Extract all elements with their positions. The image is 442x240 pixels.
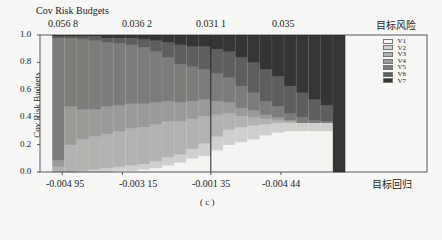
bar-segment-v6 xyxy=(296,93,309,118)
bar-segment-v5 xyxy=(260,101,273,115)
bar-segment-v6 xyxy=(308,99,321,120)
bar-segment-v2 xyxy=(211,136,224,150)
bar-segment-v3 xyxy=(64,145,77,173)
bar-segment-v5 xyxy=(296,117,309,123)
legend-swatch xyxy=(383,45,393,50)
bar-segment-v1 xyxy=(186,158,199,172)
bar-segment-v5 xyxy=(186,67,199,102)
bar-segment-v3 xyxy=(211,114,224,136)
bar-segment-v1 xyxy=(174,162,187,172)
bar-segment-v4 xyxy=(150,102,163,124)
bar-segment-v2 xyxy=(284,123,297,132)
bar-segment-v6 xyxy=(235,57,248,86)
bar-segment-v2 xyxy=(247,125,260,139)
bar-segment-v6 xyxy=(211,49,224,74)
bottom-tick-2: -0.001 35 xyxy=(192,178,230,189)
figure-caption: ( c ) xyxy=(200,197,215,207)
bar-segment-v4 xyxy=(260,114,273,118)
bar-segment-v1 xyxy=(321,131,334,172)
bar-segment-v5 xyxy=(52,38,64,160)
bar-segment-v7 xyxy=(333,35,346,172)
legend-swatch xyxy=(383,65,393,70)
bar-segment-v2 xyxy=(321,123,334,132)
bar-segment-v7 xyxy=(308,35,321,100)
bar-segment-v4 xyxy=(223,102,236,113)
bar-segment-v7 xyxy=(150,35,163,41)
bar-segment-v4 xyxy=(247,110,260,117)
bar-segment-v7 xyxy=(138,35,151,39)
bar-segment-v7 xyxy=(272,35,285,76)
bar-segment-v3 xyxy=(89,136,102,169)
bar-segment-v1 xyxy=(211,150,224,172)
bar-segment-v4 xyxy=(113,105,126,131)
bar-segment-v4 xyxy=(211,101,224,115)
bar-segment-v6 xyxy=(247,62,260,92)
bar-segment-v2 xyxy=(296,123,309,132)
bar-segment-v6 xyxy=(125,38,137,45)
legend-swatch xyxy=(383,78,393,83)
bar-segment-v6 xyxy=(101,38,114,42)
bar-segment-v6 xyxy=(260,69,273,101)
bar-segment-v6 xyxy=(174,45,187,64)
bar-segment-v1 xyxy=(296,131,309,172)
bar-segment-v3 xyxy=(125,128,137,165)
bar-segment-v5 xyxy=(284,113,297,120)
bar-segment-v1 xyxy=(223,145,236,173)
bar-segment-v5 xyxy=(113,43,126,105)
bar-segment-v2 xyxy=(138,164,151,170)
bar-segment-v1 xyxy=(308,131,321,172)
bar-segment-v5 xyxy=(272,106,285,117)
bar-segment-v6 xyxy=(223,51,236,77)
bar-segment-v1 xyxy=(199,156,212,173)
bar-segment-v1 xyxy=(260,135,273,172)
bar-segment-v4 xyxy=(52,160,64,167)
bar-segment-v3 xyxy=(199,116,212,144)
bar-segment-v2 xyxy=(235,127,248,142)
bar-segment-v6 xyxy=(321,105,334,122)
bar-segment-v2 xyxy=(162,157,175,166)
bar-segment-v7 xyxy=(284,35,297,86)
legend-item-v7: V7 xyxy=(356,78,406,85)
legend-swatch xyxy=(383,72,393,77)
bar-segment-v4 xyxy=(77,109,90,139)
bar-segment-v5 xyxy=(138,47,151,103)
bar-segment-v5 xyxy=(174,64,187,103)
legend-label: V7 xyxy=(397,78,406,85)
bar-segment-v2 xyxy=(113,167,126,171)
x-axis-label: 目标回归 xyxy=(372,176,412,191)
bar-segment-v4 xyxy=(199,99,212,116)
bar-segment-v1 xyxy=(162,165,175,172)
bar-segment-v4 xyxy=(101,106,114,134)
bar-segment-v6 xyxy=(199,46,212,70)
bar-segment-v7 xyxy=(186,35,199,46)
bar-segment-v5 xyxy=(247,93,260,111)
bar-segment-v5 xyxy=(235,86,248,108)
bar-segment-v5 xyxy=(162,57,175,101)
bar-segment-v2 xyxy=(272,123,285,133)
bar-segment-v5 xyxy=(150,51,163,102)
bar-segment-v4 xyxy=(174,102,187,121)
bar-segment-v4 xyxy=(272,117,285,120)
bar-segment-v2 xyxy=(223,130,236,145)
bar-segment-v6 xyxy=(186,46,199,67)
bar-segment-v2 xyxy=(186,149,199,159)
legend-swatch xyxy=(383,39,393,44)
bottom-tick-0: -0.004 95 xyxy=(46,178,84,189)
bar-segment-v3 xyxy=(186,119,199,149)
bar-segment-v6 xyxy=(77,36,90,39)
bar-segment-v2 xyxy=(150,161,163,168)
bar-segment-v2 xyxy=(199,143,212,156)
bar-segment-v4 xyxy=(125,104,137,129)
bar-segment-v7 xyxy=(101,35,114,38)
bar-segment-v3 xyxy=(260,119,273,125)
bar-segment-v7 xyxy=(199,35,212,46)
bar-segment-v6 xyxy=(89,36,102,40)
bottom-tick-1: -0.003 15 xyxy=(119,178,157,189)
bar-segment-v5 xyxy=(199,69,212,99)
bar-segment-v5 xyxy=(101,42,114,107)
bar-segment-v1 xyxy=(247,139,260,172)
legend: V1V2V3V4V5V6V7 xyxy=(356,38,406,84)
bar-segment-v3 xyxy=(247,117,260,126)
bottom-tick-3: -0.004 44 xyxy=(262,178,300,189)
bar-segment-v1 xyxy=(40,35,53,172)
